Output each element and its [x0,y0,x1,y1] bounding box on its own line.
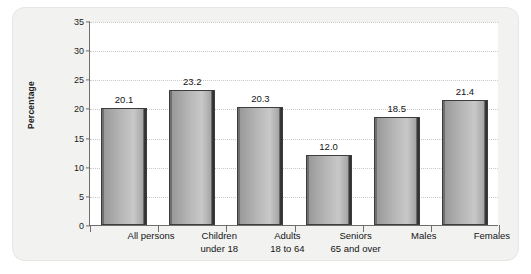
y-tick-label: 5 [56,192,84,202]
bars-layer: 20.123.220.312.018.521.4 [90,22,498,225]
x-tick-label: Females [474,230,510,243]
x-axis-labels: All personsChildrenunder 18Adults18 to 6… [89,230,526,266]
x-tick-label-line2: under 18 [200,243,238,256]
bar-value-label: 21.4 [456,86,475,97]
x-tick-label-line1: Females [474,230,510,241]
y-tick-label: 10 [56,163,84,173]
y-tick-label: 30 [56,46,84,56]
bar[interactable] [306,155,352,225]
bar[interactable] [101,108,147,225]
bar-slot: 20.3 [226,22,294,225]
x-tick-label-line2: 18 to 64 [270,243,304,256]
x-tick-label: Childrenunder 18 [200,230,238,255]
bar-value-label: 20.3 [251,93,270,104]
bar-value-label: 18.5 [387,103,406,114]
chart-panel: Percentage 05101520253035 20.123.220.312… [13,8,518,260]
bar-value-label: 23.2 [183,76,202,87]
y-axis-title: Percentage [26,65,36,145]
x-tick-label-line2: 65 and over [330,243,380,256]
bar-slot: 20.1 [90,22,158,225]
plot-wrapper: 05101520253035 20.123.220.312.018.521.4 [61,22,498,226]
x-tick-label: Adults18 to 64 [270,230,304,255]
bar-slot: 12.0 [295,22,363,225]
bar-slot: 18.5 [363,22,431,225]
plot-area: 05101520253035 20.123.220.312.018.521.4 [89,22,498,226]
x-tick-label-line1: Seniors [339,230,371,241]
y-tick-label: 25 [56,75,84,85]
bar[interactable] [169,90,215,225]
y-tick-label: 15 [56,134,84,144]
y-tick-label: 20 [56,104,84,114]
x-tick-label: Males [411,230,436,243]
bar[interactable] [237,107,283,225]
x-tick-label-line1: Adults [274,230,300,241]
bar[interactable] [374,117,420,225]
bar[interactable] [442,100,488,225]
bar-value-label: 20.1 [115,94,134,105]
x-tick-label-line1: All persons [128,230,175,241]
y-tick-label: 35 [56,17,84,27]
bar-slot: 23.2 [158,22,226,225]
y-tick-label: 0 [56,221,84,231]
x-tick-label: All persons [128,230,175,243]
x-tick-label: Seniors65 and over [330,230,380,255]
bar-slot: 21.4 [431,22,499,225]
bar-value-label: 12.0 [319,141,338,152]
x-tick-label-line1: Males [411,230,436,241]
x-tick-label-line1: Children [202,230,237,241]
